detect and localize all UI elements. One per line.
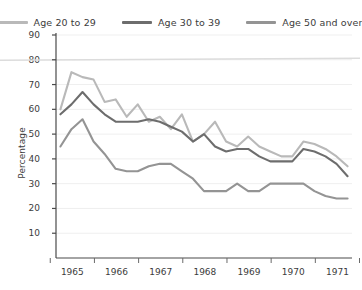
legend-item-age-20-to-29: Age 20 to 29 [0,17,96,28]
legend-swatch-age-20-to-29 [0,21,28,24]
legend-label-age-30-to-39: Age 30 to 39 [158,17,220,28]
legend-item-age-30-to-39: Age 30 to 39 [122,17,220,28]
legend-label-age-50-and-over: Age 50 and over [282,17,362,28]
cut-off-title [0,0,360,9]
plot-area: Percentage 102030405060708090 1965196619… [0,30,360,290]
legend-item-age-50-and-over: Age 50 and over [246,17,362,28]
legend-swatch-age-50-and-over [246,21,276,24]
legend-swatch-age-30-to-39 [122,21,152,24]
legend-label-age-20-to-29: Age 20 to 29 [34,17,96,28]
chart-legend: Age 20 to 29 Age 30 to 39 Age 50 and ove… [0,14,360,30]
chart-svg [0,30,360,290]
